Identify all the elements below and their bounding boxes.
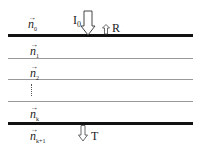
layer-label-n2: →n2 — [30, 67, 39, 84]
layer-label-nk: →nk — [30, 108, 39, 125]
layer-label-n0: →n0 — [28, 18, 37, 35]
ellipsis-dots — [31, 84, 32, 96]
reflected-arrow-icon — [102, 24, 110, 35]
layer-label-nk1: →nk+1 — [30, 130, 45, 147]
transmitted-label: T — [91, 130, 98, 142]
layer-label-n1: →n1 — [30, 45, 39, 62]
incident-arrow-icon — [80, 10, 96, 36]
reflected-label: R — [112, 22, 120, 34]
transmitted-arrow-icon — [78, 125, 88, 142]
